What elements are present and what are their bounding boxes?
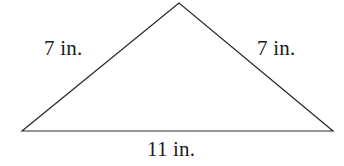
right-side-length-label: 7 in. [257,38,295,59]
triangle-outline [22,3,333,131]
left-side-length-label: 7 in. [44,38,82,59]
base-length-label: 11 in. [147,139,195,160]
geometry-figure: 7 in. 7 in. 11 in. [0,0,344,166]
